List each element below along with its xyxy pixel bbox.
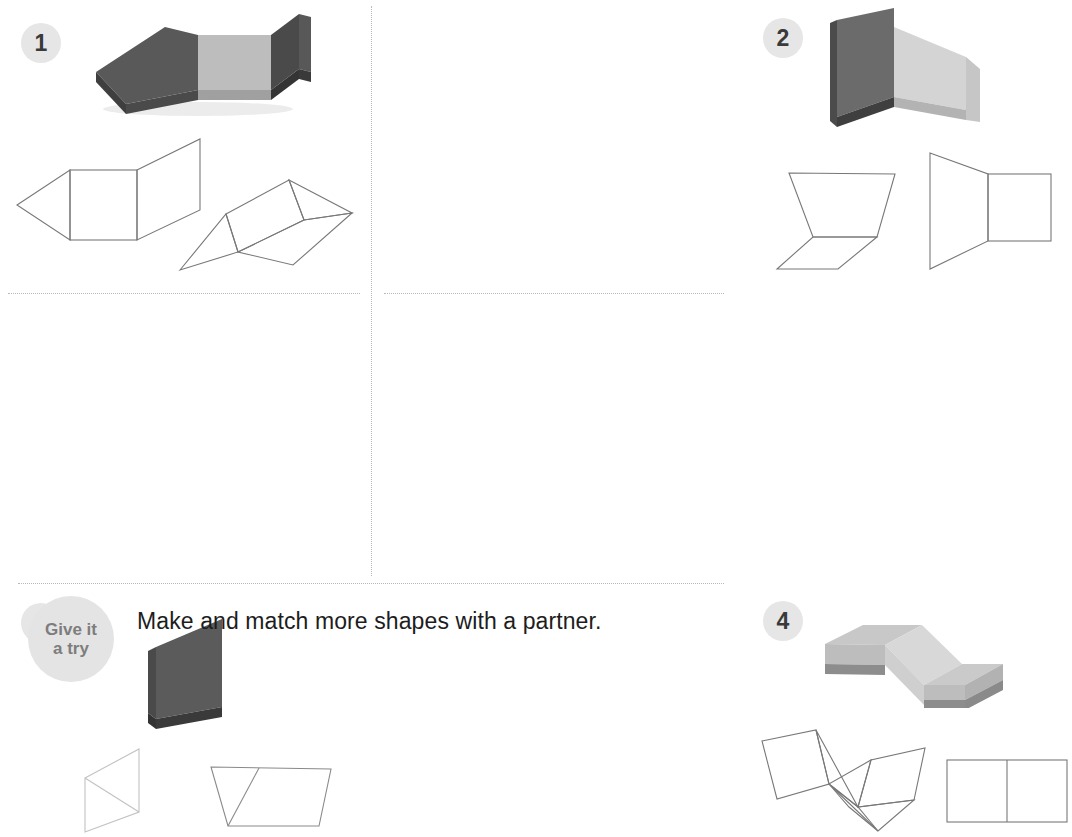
net-figure-1a <box>12 128 202 243</box>
solid-figure-2 <box>828 5 1018 145</box>
footer-instruction-text: Make and match more shapes with a partne… <box>137 608 601 635</box>
net-figure-2b <box>923 151 1058 276</box>
net-figure-3a <box>56 745 146 835</box>
problem-4: 4 <box>371 293 731 583</box>
give-it-a-try-line2: a try <box>53 639 89 658</box>
problem-number-badge-2: 2 <box>763 18 803 58</box>
solid-figure-1 <box>78 6 318 121</box>
solid-figure-4 <box>817 618 1017 708</box>
divider-horizontal-bottom <box>18 583 724 584</box>
net-figure-1b <box>176 170 361 280</box>
net-figure-4b <box>944 756 1072 826</box>
net-figure-2a <box>775 165 900 275</box>
problem-3: 3 <box>0 293 371 583</box>
net-figure-3b <box>188 763 338 833</box>
problem-number-badge-1: 1 <box>21 23 61 63</box>
problem-number-badge-4: 4 <box>763 601 803 641</box>
problem-2: 2 <box>371 0 731 293</box>
give-it-a-try-badge: Give it a try <box>28 596 114 682</box>
net-figure-4a <box>759 727 939 837</box>
give-it-a-try-line1: Give it <box>45 620 97 639</box>
problem-1: 1 <box>0 0 371 293</box>
